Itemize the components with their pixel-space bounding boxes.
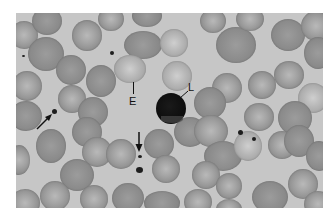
erythrocyte — [16, 189, 40, 208]
label-e: E — [129, 96, 136, 107]
platelet — [238, 130, 243, 135]
erythrocyte — [274, 61, 304, 89]
erythrocyte — [16, 145, 30, 175]
erythrocyte — [252, 181, 288, 208]
erythrocyte — [36, 129, 66, 163]
erythrocyte — [132, 13, 162, 27]
erythrocyte — [184, 189, 212, 208]
erythrocyte — [236, 13, 264, 31]
erythrocyte — [248, 71, 276, 99]
erythrocyte — [86, 65, 116, 97]
erythrocyte — [80, 185, 108, 208]
platelet — [110, 51, 114, 55]
platelet — [138, 155, 142, 158]
erythrocyte — [72, 20, 102, 51]
erythrocyte — [112, 183, 144, 208]
erythrocyte — [234, 131, 262, 161]
erythrocyte — [98, 13, 124, 31]
erythrocyte — [304, 37, 323, 69]
erythrocyte — [200, 13, 226, 33]
arrow-down-icon — [135, 132, 143, 154]
erythrocyte — [160, 29, 188, 57]
erythrocyte — [40, 181, 70, 208]
erythrocyte — [271, 19, 305, 51]
arrow-up-right-icon — [36, 112, 54, 130]
erythrocyte — [244, 103, 274, 131]
erythrocyte — [56, 55, 86, 85]
erythrocyte — [16, 71, 42, 101]
erythrocyte-labeled-e — [114, 55, 146, 83]
erythrocyte — [152, 155, 180, 183]
erythrocyte — [216, 173, 242, 199]
micrograph-figure — [16, 13, 323, 208]
erythrocyte — [216, 27, 256, 63]
erythrocyte — [32, 13, 62, 35]
label-l: L — [188, 82, 194, 93]
e-leader-line — [133, 82, 134, 94]
erythrocyte — [106, 139, 136, 169]
platelet — [22, 55, 25, 57]
platelet — [252, 137, 256, 141]
erythrocyte — [306, 141, 323, 171]
platelet — [136, 167, 143, 173]
erythrocyte — [216, 199, 242, 208]
erythrocyte — [144, 191, 180, 208]
